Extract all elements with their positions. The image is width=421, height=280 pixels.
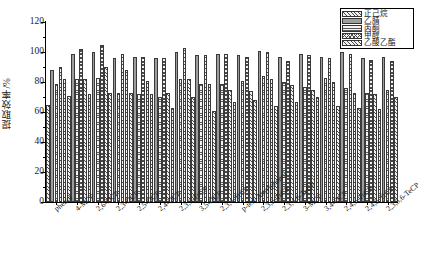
bar-2: [158, 97, 162, 202]
bar-group: [108, 54, 128, 203]
bar-1: [361, 58, 365, 202]
bar-group: [357, 58, 377, 202]
bar-group: [378, 57, 398, 203]
bar-3: [390, 61, 394, 202]
bar-0: [108, 93, 112, 203]
bar-2: [96, 78, 100, 203]
y-tick-label-40: 40: [4, 137, 44, 147]
legend: 正己烷乙腈丙酮甲醇乙酸乙酯: [340, 8, 414, 49]
bar-group: [233, 55, 253, 202]
bar-4: [104, 67, 108, 202]
bar-4: [249, 91, 253, 202]
y-tick-label-100: 100: [4, 47, 44, 57]
bar-3: [100, 45, 104, 203]
bar-3: [369, 60, 373, 203]
bar-0: [191, 97, 195, 202]
bar-4: [166, 93, 170, 203]
y-tick-label-60: 60: [4, 107, 44, 117]
bar-1: [382, 57, 386, 203]
bar-1: [320, 57, 324, 203]
bar-0: [129, 93, 133, 203]
bar-3: [141, 57, 145, 203]
bar-4: [228, 90, 232, 203]
bar-1: [92, 52, 96, 202]
bar-3: [349, 54, 353, 203]
bar-4: [394, 97, 398, 202]
bar-2: [117, 93, 121, 203]
bar-0: [378, 109, 382, 202]
bar-3: [286, 61, 290, 202]
bar-4: [373, 94, 377, 202]
legend-swatch: [342, 40, 362, 46]
bar-2: [262, 76, 266, 202]
bar-4: [83, 79, 87, 202]
bar-4: [63, 79, 67, 202]
bar-2: [179, 79, 183, 202]
bar-0: [46, 105, 50, 203]
y-tick-label-120: 120: [4, 17, 44, 27]
bar-1: [258, 51, 262, 203]
bar-1: [71, 54, 75, 203]
bar-4: [332, 82, 336, 202]
bar-3: [79, 49, 83, 202]
bar-0: [212, 111, 216, 203]
bar-2: [137, 94, 141, 202]
bar-1: [216, 54, 220, 203]
legend-label: 乙酸乙酯: [364, 39, 396, 47]
bar-3: [204, 55, 208, 202]
legend-swatch: [342, 33, 362, 39]
bar-2: [75, 79, 79, 202]
bar-group: [316, 57, 336, 203]
bar-group: [336, 52, 356, 202]
bar-1: [113, 58, 117, 202]
bar-2: [55, 84, 59, 203]
bar-group: [171, 48, 191, 203]
bar-4: [146, 81, 150, 203]
bar-1: [133, 57, 137, 203]
bar-4: [353, 93, 357, 203]
legend-item: 乙酸乙酯: [342, 40, 412, 47]
bar-4: [290, 85, 294, 202]
bar-group: [46, 67, 66, 202]
y-tick-minor: [43, 37, 46, 38]
bar-4: [187, 79, 191, 202]
bar-0: [233, 102, 237, 203]
bar-3: [245, 57, 249, 203]
bar-0: [357, 108, 361, 203]
bar-3: [224, 54, 228, 203]
bar-4: [208, 84, 212, 203]
legend-swatch: [342, 18, 362, 24]
bar-2: [344, 88, 348, 202]
bar-1: [340, 52, 344, 202]
bar-2: [324, 78, 328, 203]
bar-0: [67, 96, 71, 203]
y-tick-label-80: 80: [4, 77, 44, 87]
bar-0: [295, 102, 299, 203]
bar-3: [59, 67, 63, 202]
bar-group: [191, 55, 211, 202]
bar-1: [154, 58, 158, 202]
bar-1: [175, 52, 179, 202]
bar-group: [295, 54, 315, 203]
plot-area: 020406080100120: [46, 22, 398, 202]
bar-0: [150, 94, 154, 202]
bar-0: [88, 94, 92, 202]
bar-0: [253, 100, 257, 202]
bar-1: [195, 55, 199, 202]
bar-group: [67, 49, 87, 202]
bar-0: [336, 106, 340, 202]
bar-group: [129, 57, 149, 203]
bar-3: [183, 48, 187, 203]
y-tick-label-0: 0: [4, 197, 44, 207]
legend-swatch: [342, 25, 362, 31]
bar-2: [220, 84, 224, 203]
bar-4: [125, 70, 129, 202]
bar-0: [171, 108, 175, 203]
bar-3: [328, 58, 332, 202]
bar-3: [162, 58, 166, 202]
y-tick-label-20: 20: [4, 167, 44, 177]
legend-swatch: [342, 11, 362, 17]
bar-1: [299, 54, 303, 203]
bar-group: [212, 54, 232, 203]
